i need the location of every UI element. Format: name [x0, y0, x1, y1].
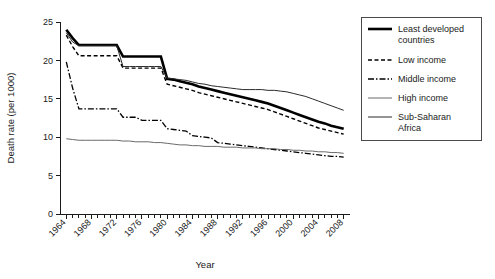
y-tick-label: 5	[48, 171, 53, 181]
series-line-3	[66, 139, 343, 154]
x-tick-label: 2008	[324, 217, 345, 238]
series-line-0	[66, 30, 343, 129]
y-tick-label: 15	[43, 94, 53, 104]
legend-label-4-line2: Africa	[398, 123, 421, 133]
y-tick-label: 10	[43, 132, 53, 142]
x-axis-title: Year	[195, 259, 214, 270]
x-tick-label: 1988	[198, 217, 219, 238]
axis-labels: 0510152025196419681972197619801984198819…	[5, 17, 345, 270]
chart-figure: 0510152025196419681972197619801984198819…	[0, 0, 495, 279]
x-tick-label: 2000	[273, 217, 294, 238]
x-tick-label: 1984	[173, 217, 194, 238]
x-tick-label: 2004	[299, 217, 320, 238]
legend-label-0: Least developed	[398, 24, 464, 34]
line-chart: 0510152025196419681972197619801984198819…	[0, 0, 495, 279]
series-line-2	[66, 62, 343, 157]
plot-area	[66, 30, 343, 157]
x-tick-label: 1980	[147, 217, 168, 238]
y-tick-label: 0	[48, 209, 53, 219]
legend-label-1: Low income	[398, 55, 446, 65]
x-tick-label: 1972	[97, 217, 118, 238]
x-tick-label: 1996	[248, 217, 269, 238]
x-tick-label: 1992	[223, 217, 244, 238]
x-tick-label: 1968	[72, 217, 93, 238]
y-tick-label: 25	[43, 17, 53, 27]
y-axis-title: Death rate (per 1000)	[5, 73, 16, 164]
legend-label-4: Sub-Saharan	[398, 112, 451, 122]
x-tick-label: 1964	[46, 217, 67, 238]
legend-label-2: Middle income	[398, 74, 456, 84]
x-tick-label: 1976	[122, 217, 143, 238]
legend-label-0-line2: countries	[398, 35, 435, 45]
chart-legend: Least developedcountriesLow incomeMiddle…	[361, 17, 481, 140]
y-tick-label: 20	[43, 56, 53, 66]
axes	[56, 22, 350, 219]
legend-label-3: High income	[398, 93, 448, 103]
